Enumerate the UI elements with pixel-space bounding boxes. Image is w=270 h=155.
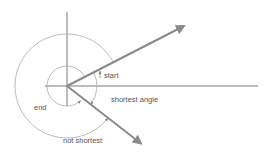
angle-diagram: start shortest angle end not shortest [0, 0, 270, 155]
diagram-canvas [0, 0, 270, 155]
shortest-angle-label: shortest angle [111, 96, 158, 104]
not-shortest-label: not shortest [63, 137, 102, 145]
shortest-angle-arc [91, 72, 97, 104]
start-label: start [104, 72, 119, 80]
end-label: end [34, 104, 47, 112]
start-vector [67, 26, 184, 86]
